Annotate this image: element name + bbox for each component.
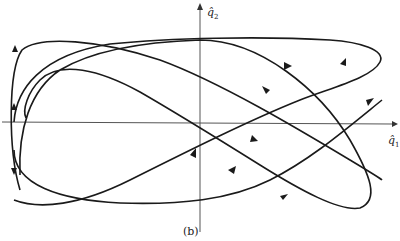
arrow-icon — [340, 58, 346, 66]
arrow-icon — [12, 45, 18, 52]
y-axis-arrow-icon — [197, 3, 203, 10]
arrow-icon — [366, 98, 374, 106]
arrow-icon — [280, 194, 288, 200]
y-axis-label: q̂2 — [207, 6, 219, 21]
arrow-icon — [228, 166, 236, 174]
x-axis-arrow-icon — [392, 121, 398, 127]
arrow-icon — [262, 86, 270, 94]
x-axis-label: q̂1 — [388, 134, 400, 149]
x-axis — [2, 122, 392, 124]
arrow-icon — [284, 62, 292, 70]
arrow-icon — [250, 135, 258, 142]
figure-caption: (b) — [183, 225, 199, 238]
